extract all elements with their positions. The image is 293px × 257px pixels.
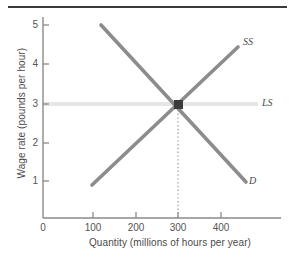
y-axis-title: Wage rate (pounds per hour) [16, 49, 27, 179]
x-axis-title: Quantity (millions of hours per year) [60, 237, 280, 248]
ls-line-label: LS [262, 97, 273, 108]
chart-figure: 5 4 3 2 1 0 100 200 300 400 Wage rate (p… [0, 0, 293, 257]
x-tick-label-300: 300 [163, 222, 193, 233]
supply-curve-label: SS [243, 36, 253, 47]
supply-curve [92, 47, 238, 185]
equilibrium-marker [174, 100, 183, 109]
x-tick-label-0: 0 [28, 222, 58, 233]
x-axis-ticks [93, 212, 221, 218]
demand-curve-label: D [249, 175, 256, 186]
y-tick-label-5: 5 [22, 19, 38, 30]
x-tick-label-100: 100 [78, 222, 108, 233]
x-tick-label-200: 200 [121, 222, 151, 233]
x-tick-label-400: 400 [206, 222, 236, 233]
